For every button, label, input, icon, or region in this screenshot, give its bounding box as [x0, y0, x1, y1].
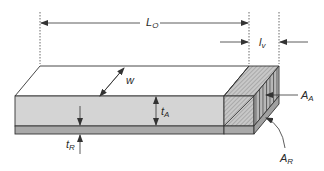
front-face-reinforcement [15, 126, 224, 134]
label-thickness-reinforcement: tR [66, 139, 75, 152]
label-area-reinforcement: AR [280, 153, 293, 166]
label-width: w [126, 75, 134, 86]
diagram-canvas: LO lv w tA tR AA AR [0, 0, 324, 171]
label-total-length: LO [146, 17, 158, 30]
label-thickness-adherend: tA [161, 106, 169, 119]
AR-leader [266, 118, 285, 148]
label-area-adherend: AA [301, 90, 314, 103]
extension-lines [40, 12, 279, 64]
laminate-diagram [0, 0, 324, 171]
front-face-adherend [15, 96, 224, 126]
overlap-front-reinforcement [224, 126, 254, 134]
label-overlap-length: lv [259, 37, 265, 50]
